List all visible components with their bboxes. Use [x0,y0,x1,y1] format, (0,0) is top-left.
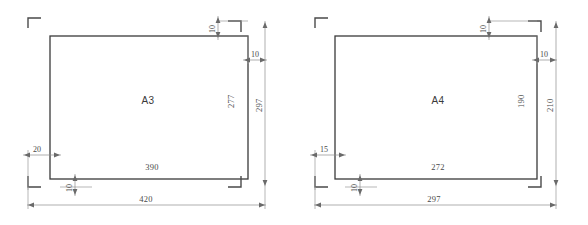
a4-corner-mark-bottom-right [528,176,541,187]
a3-inner-width-value: 390 [145,162,158,172]
a4-inner-height-value: 190 [516,95,526,108]
a4-left-margin-arrow-left [311,153,317,158]
a4-inner-width-value: 272 [431,162,444,172]
a4-outer-height-value: 210 [545,99,555,112]
a3-margin-right-value: 10 [251,50,259,59]
a4-right-margin-arrow-left [533,58,539,63]
a3-inner-frame [50,36,248,179]
sheet-a3-group: 10 10 277 297 20 390 [23,16,267,209]
a4-outer-width-arrow-left [315,203,321,208]
a4-sheet-label: A4 [431,95,444,106]
a3-outer-height-arrow-bottom [263,180,268,186]
a3-margin-top-value: 10 [208,25,217,33]
a3-corner-mark-bottom-left [28,176,41,187]
a4-corner-mark-bottom-left [315,176,328,187]
sheet-a4-group: 10 10 190 210 15 272 [310,16,558,209]
a4-margin-right-value: 10 [540,50,548,59]
a4-margin-top-value: 10 [479,25,488,33]
a4-top-margin-arrow-up [487,17,492,23]
a4-left-margin-arrow-right [339,153,345,158]
a3-outer-width-value: 420 [139,194,152,204]
a3-outer-width-arrow-right [259,203,265,208]
a4-outer-height-arrow-top [554,22,559,28]
a3-left-margin-arrow-right [54,153,60,158]
a3-corner-mark-top-left [28,18,41,28]
a4-outer-height-arrow-bottom [554,180,559,186]
a3-bottom-margin-arrow-up [73,175,78,181]
a4-outer-width-arrow-right [550,203,556,208]
a3-right-margin-arrow-left [244,58,250,63]
a4-corner-mark-top-right [528,21,541,32]
a4-inner-frame [335,36,537,179]
drawing-canvas: 10 10 277 297 20 390 [0,0,588,225]
a3-corner-mark-bottom-right [228,176,241,187]
a3-sheet-label: A3 [141,95,154,106]
a4-outer-width-value: 297 [427,194,440,204]
a3-inner-height-value: 277 [226,95,236,108]
a4-bottom-margin-arrow-up [358,175,363,181]
a4-right-margin-arrow-right [550,58,556,63]
a3-outer-width-arrow-left [28,203,34,208]
a3-left-margin-arrow-left [24,153,30,158]
a4-margin-left-value: 15 [320,145,328,154]
a3-top-margin-arrow-up [216,17,221,23]
a3-margin-left-value: 20 [33,145,41,154]
a4-margin-bottom-value: 10 [350,184,359,192]
a3-corner-mark-top-right [228,21,241,32]
dimension-drawing-svg: 10 10 277 297 20 390 [0,0,588,225]
a3-margin-bottom-value: 10 [65,184,74,192]
a4-corner-mark-top-left [315,18,328,28]
a3-outer-height-arrow-top [263,22,268,28]
a3-outer-height-value: 297 [254,99,264,112]
